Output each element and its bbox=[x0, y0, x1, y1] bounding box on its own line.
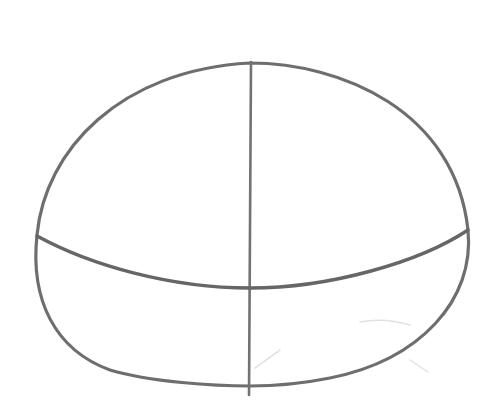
head-oval-outline bbox=[36, 63, 469, 386]
faint-erased-mark bbox=[255, 350, 280, 368]
head-construction-drawing bbox=[36, 62, 469, 395]
pencil-sketch bbox=[0, 0, 498, 418]
faint-erased-mark bbox=[410, 360, 428, 372]
faint-erased-mark bbox=[360, 320, 410, 325]
horizontal-guide-line bbox=[37, 230, 468, 288]
vertical-center-line bbox=[249, 62, 251, 395]
